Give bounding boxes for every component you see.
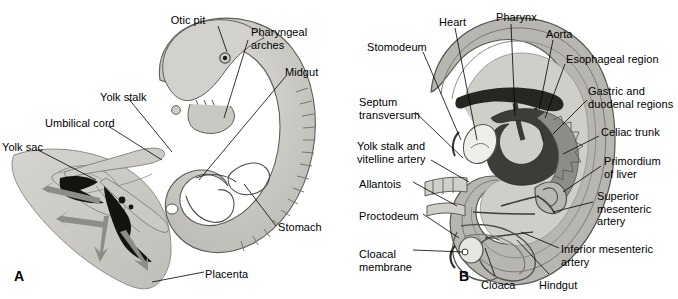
label-umbilical-cord: Umbilical cord (45, 117, 115, 130)
label-midgut: Midgut (285, 66, 318, 79)
label-placenta: Placenta (205, 268, 248, 281)
embryo-body-shape (159, 18, 315, 252)
panel-a: A Otic pit Pharyngeal arches Midgut Yolk… (0, 0, 339, 299)
label-stomodeum: Stomodeum (367, 41, 427, 54)
label-septum-transversum: Septum transversum (359, 96, 420, 121)
label-esophageal-region: Esophageal region (566, 53, 659, 66)
label-hindgut: Hindgut (539, 279, 577, 292)
label-allantois: Allantois (359, 178, 401, 191)
label-stomach: Stomach (278, 221, 322, 234)
label-aorta: Aorta (546, 28, 573, 41)
label-celiac-trunk: Celiac trunk (601, 126, 660, 139)
label-yolk-sac: Yolk sac (2, 141, 43, 154)
label-gastric-and-duodenal-regions: Gastric and duodenal regions (588, 85, 673, 110)
panel-a-letter: A (14, 268, 24, 284)
label-pharyngeal-arches: Pharyngeal arches (251, 26, 307, 51)
label-yolk-stalk-and-vitelline-artery: Yolk stalk and vitelline artery (357, 140, 426, 165)
label-yolk-stalk: Yolk stalk (100, 91, 147, 104)
allantois-shape (427, 203, 465, 216)
otic-pit-marker (220, 53, 230, 63)
panel-b-letter: B (459, 268, 469, 284)
label-heart: Heart (439, 16, 466, 29)
label-pharynx: Pharynx (496, 11, 537, 24)
label-superior-mesenteric-artery: Superior mesenteric artery (597, 190, 651, 228)
label-primordium-of-liver: Primordium of liver (604, 155, 661, 180)
panel-b: B Heart Pharynx Aorta Stomodeum Esophage… (339, 0, 678, 299)
label-otic-pit: Otic pit (158, 14, 218, 27)
label-cloacal-membrane: Cloacal membrane (359, 248, 412, 273)
label-cloaca: Cloaca (481, 279, 516, 292)
label-proctodeum: Proctodeum (359, 210, 419, 223)
pharyngeal-arches-shape (188, 100, 235, 133)
label-inferior-mesenteric-artery: Inferior mesenteric artery (561, 243, 653, 268)
embryology-figure: A Otic pit Pharyngeal arches Midgut Yolk… (0, 0, 678, 299)
stomodeum-shape (453, 132, 459, 156)
